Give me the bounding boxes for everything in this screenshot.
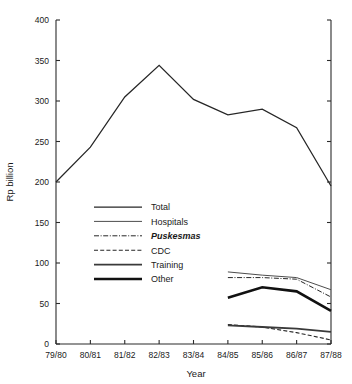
legend-label-puskesmas: Puskesmas — [151, 231, 201, 241]
x-tick-label: 85/86 — [252, 350, 274, 360]
y-axis-ticks: 050100150200250300350400 — [35, 15, 331, 349]
x-axis-title: Year — [186, 368, 205, 379]
x-tick-label: 80/81 — [80, 350, 102, 360]
chart-container: 050100150200250300350400 79/8080/8181/82… — [0, 0, 352, 384]
legend-label-training: Training — [151, 260, 183, 270]
x-tick-label: 82/83 — [148, 350, 170, 360]
x-tick-label: 79/80 — [45, 350, 67, 360]
legend-label-total: Total — [151, 202, 170, 212]
y-tick-label: 400 — [35, 15, 49, 25]
y-tick-label: 50 — [40, 299, 50, 309]
y-tick-label: 0 — [44, 339, 49, 349]
series-line-hospitals — [228, 272, 331, 290]
line-chart: 050100150200250300350400 79/8080/8181/82… — [0, 0, 352, 384]
series-line-training — [228, 325, 331, 331]
y-tick-label: 200 — [35, 177, 49, 187]
data-series — [56, 65, 331, 340]
y-tick-label: 150 — [35, 218, 49, 228]
legend-label-other: Other — [151, 274, 174, 284]
x-axis-ticks: 79/8080/8181/8282/8383/8484/8585/8686/87… — [45, 340, 342, 360]
y-tick-label: 250 — [35, 137, 49, 147]
x-tick-label: 81/82 — [114, 350, 136, 360]
chart-legend: TotalHospitalsPuskesmasCDCTrainingOther — [94, 202, 201, 284]
x-tick-label: 83/84 — [183, 350, 205, 360]
x-tick-label: 87/88 — [320, 350, 342, 360]
series-line-other — [228, 287, 331, 310]
series-line-total — [56, 65, 331, 186]
x-tick-label: 86/87 — [286, 350, 308, 360]
y-tick-label: 350 — [35, 56, 49, 66]
x-tick-label: 84/85 — [217, 350, 239, 360]
y-tick-label: 100 — [35, 258, 49, 268]
legend-label-hospitals: Hospitals — [151, 217, 189, 227]
y-axis-title: Rp billion — [4, 162, 15, 201]
axes — [56, 20, 331, 344]
legend-label-cdc: CDC — [151, 246, 171, 256]
y-tick-label: 300 — [35, 96, 49, 106]
